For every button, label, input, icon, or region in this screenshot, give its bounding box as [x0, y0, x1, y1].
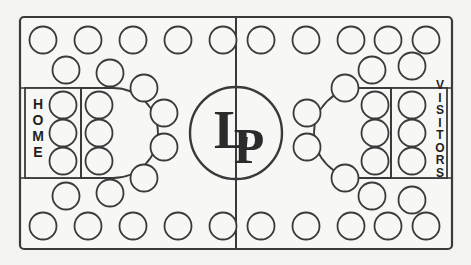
seat-circle[interactable]: [210, 27, 237, 54]
seat-circle[interactable]: [359, 57, 386, 84]
seat-circle[interactable]: [53, 183, 80, 210]
seat-circle[interactable]: [332, 75, 359, 102]
seat-circle[interactable]: [86, 148, 113, 175]
seat-circle[interactable]: [75, 213, 102, 240]
seat-circle[interactable]: [248, 27, 275, 54]
seat-circle[interactable]: [50, 148, 77, 175]
seat-circle[interactable]: [362, 148, 389, 175]
seat-circle[interactable]: [362, 120, 389, 147]
seat-circle[interactable]: [248, 213, 275, 240]
seat-circle[interactable]: [151, 134, 178, 161]
home-goal-box-circles: [50, 92, 77, 175]
seat-circle[interactable]: [210, 213, 237, 240]
seat-circle[interactable]: [97, 60, 124, 87]
seat-circle[interactable]: [50, 92, 77, 119]
seat-circle[interactable]: [86, 92, 113, 119]
seat-circle[interactable]: [413, 27, 440, 54]
seat-circle[interactable]: [293, 27, 320, 54]
seat-circle[interactable]: [399, 120, 426, 147]
seat-circle[interactable]: [375, 213, 402, 240]
seat-circle[interactable]: [294, 134, 321, 161]
seat-circle[interactable]: [338, 27, 365, 54]
home-crease-circles: [86, 92, 113, 175]
seat-circle[interactable]: [97, 180, 124, 207]
seat-circle[interactable]: [413, 213, 440, 240]
seat-circle[interactable]: [362, 92, 389, 119]
seat-circle[interactable]: [375, 27, 402, 54]
seat-circle[interactable]: [294, 100, 321, 127]
rink-diagram: L P HOME VISITORS: [0, 0, 471, 265]
rink-svg: L P HOME VISITORS: [0, 0, 471, 265]
seat-circle[interactable]: [399, 92, 426, 119]
seat-circle[interactable]: [399, 148, 426, 175]
seat-circle[interactable]: [338, 213, 365, 240]
seat-circle[interactable]: [293, 213, 320, 240]
seat-circle[interactable]: [332, 165, 359, 192]
seat-circle[interactable]: [399, 187, 426, 214]
seat-circle[interactable]: [120, 27, 147, 54]
seat-circle[interactable]: [399, 53, 426, 80]
seat-circle[interactable]: [75, 27, 102, 54]
seat-circle[interactable]: [86, 120, 113, 147]
seat-circle[interactable]: [50, 120, 77, 147]
logo-letter-p: P: [234, 118, 265, 174]
seat-circle[interactable]: [53, 57, 80, 84]
seat-circle[interactable]: [131, 165, 158, 192]
seat-circle[interactable]: [131, 75, 158, 102]
seat-circle[interactable]: [359, 183, 386, 210]
home-label: HOME: [32, 96, 44, 160]
visitors-crease-circles: [362, 92, 389, 175]
seat-circle[interactable]: [151, 100, 178, 127]
seat-circle[interactable]: [30, 27, 57, 54]
visitors-goal-box-circles: [399, 92, 426, 175]
seat-circle[interactable]: [165, 27, 192, 54]
seat-circle[interactable]: [120, 213, 147, 240]
home-label-group: HOME: [32, 96, 44, 160]
seat-circle[interactable]: [165, 213, 192, 240]
seat-circle[interactable]: [30, 213, 57, 240]
